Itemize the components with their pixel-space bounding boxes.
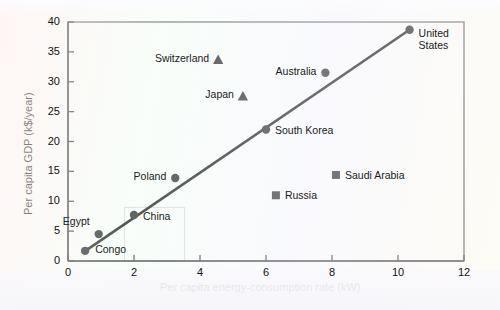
data-point-label: Australia — [276, 65, 317, 77]
y-tick-label: 20 — [22, 135, 60, 148]
data-point-label: UnitedStates — [419, 27, 449, 52]
y-tick-label: 15 — [22, 164, 60, 177]
data-point-marker[interactable] — [405, 26, 413, 34]
y-tick-label: 25 — [22, 105, 60, 118]
data-point-label-line: United — [419, 27, 449, 40]
data-point-label: Russia — [285, 189, 317, 201]
data-point-label: South Korea — [275, 124, 333, 136]
data-point-label: Congo — [95, 243, 126, 255]
data-point-marker[interactable] — [81, 247, 89, 255]
data-point-label: Poland — [134, 170, 167, 182]
data-point-label-line: States — [419, 39, 449, 52]
y-tick-label: 10 — [22, 194, 60, 207]
y-tick-label: 30 — [22, 75, 60, 88]
x-tick-label: 4 — [180, 266, 220, 279]
plot-frame — [68, 22, 464, 261]
x-tick-label: 0 — [48, 266, 88, 279]
data-point-marker[interactable] — [321, 69, 329, 77]
data-point-marker[interactable] — [238, 91, 248, 101]
x-tick-label: 6 — [246, 266, 286, 279]
trend-line — [83, 30, 410, 253]
data-point-label: Switzerland — [155, 52, 209, 64]
x-tick-label: 12 — [444, 266, 484, 279]
x-axis-title: Per capita energy-consumption rate (kW) — [160, 281, 361, 294]
scatter-plot-figure: Per capita energy-consumption rate (kW) … — [0, 0, 500, 310]
data-point-marker[interactable] — [171, 174, 179, 182]
data-point-marker[interactable] — [130, 211, 138, 219]
data-point-label: Egypt — [63, 215, 90, 227]
data-point-label: Saudi Arabia — [345, 169, 405, 181]
data-point-label: Japan — [205, 88, 234, 100]
data-point-marker[interactable] — [94, 230, 102, 238]
x-tick-label: 8 — [312, 266, 352, 279]
data-point-marker[interactable] — [272, 191, 280, 199]
x-tick-label: 10 — [378, 266, 418, 279]
data-point-marker[interactable] — [332, 171, 340, 179]
data-point-label: China — [143, 210, 170, 222]
data-point-marker[interactable] — [213, 54, 223, 64]
data-point-marker[interactable] — [262, 125, 270, 133]
y-tick-label: 40 — [22, 15, 60, 28]
x-tick-label: 2 — [114, 266, 154, 279]
y-tick-label: 35 — [22, 45, 60, 58]
y-tick-label: 0 — [22, 254, 60, 267]
y-tick-label: 5 — [22, 224, 60, 237]
